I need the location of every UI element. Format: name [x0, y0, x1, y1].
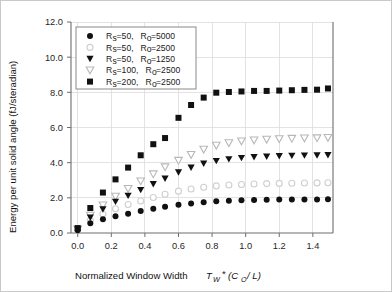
x-tick-label: 1.2: [273, 241, 286, 251]
svg-text:R: R: [146, 65, 152, 75]
svg-text:R: R: [106, 65, 112, 75]
svg-text:=2500: =2500: [151, 43, 175, 53]
y-tick-label: 2.0: [50, 193, 63, 203]
chart-figure: 0.00.20.40.60.81.01.21.40.02.04.06.08.01…: [0, 0, 392, 292]
x-tick-label: 1.4: [306, 241, 319, 251]
svg-text:=2500: =2500: [156, 65, 180, 75]
scatter-plot: 0.00.20.40.60.81.01.21.40.02.04.06.08.01…: [1, 1, 392, 292]
svg-text:=100,: =100,: [117, 65, 139, 75]
svg-text:R: R: [106, 31, 112, 41]
svg-text:=2500: =2500: [156, 77, 180, 87]
svg-text:R: R: [106, 77, 112, 87]
x-tick-label: 1.0: [239, 241, 252, 251]
x-tick-label: 0.4: [138, 241, 151, 251]
x-tick-label: 0.6: [172, 241, 185, 251]
x-tick-label: 0.0: [71, 241, 84, 251]
svg-text:R: R: [106, 43, 112, 53]
y-tick-label: 4.0: [50, 158, 63, 168]
x-tick-label: 0.2: [105, 241, 118, 251]
svg-text:=5000: =5000: [151, 31, 175, 41]
svg-text:=50,: =50,: [117, 31, 134, 41]
y-tick-label: 8.0: [50, 88, 63, 98]
y-tick-label: 10.0: [45, 53, 63, 63]
svg-text:R: R: [106, 54, 112, 64]
chart-legend: Rs=50,Ro=5000Rs=50,Ro=2500Rs=50,Ro=1250R…: [76, 27, 196, 89]
svg-text:=1250: =1250: [151, 54, 175, 64]
y-tick-label: 6.0: [50, 123, 63, 133]
x-axis-title: Normalized Window Width T W * (C O / L): [75, 268, 261, 284]
svg-text:(C: (C: [228, 270, 238, 281]
svg-text:=50,: =50,: [117, 43, 134, 53]
svg-text:Normalized Window Width: Normalized Window Width: [75, 270, 188, 281]
y-axis-title: Energy per unit solid angle (fJ/steradia…: [7, 61, 18, 233]
svg-text:R: R: [140, 43, 146, 53]
series-2: [74, 152, 331, 233]
svg-text:=200,: =200,: [117, 77, 139, 87]
x-tick-label: 0.8: [206, 241, 219, 251]
data-points: [74, 85, 332, 233]
svg-text:R: R: [146, 77, 152, 87]
svg-text:R: R: [140, 31, 146, 41]
svg-text:/ L): / L): [246, 270, 261, 281]
y-tick-label: 12.0: [45, 17, 63, 27]
svg-text:W: W: [213, 275, 221, 284]
svg-text:R: R: [140, 54, 146, 64]
series-1: [75, 180, 331, 233]
svg-text:=50,: =50,: [117, 54, 134, 64]
svg-text:T: T: [206, 270, 213, 281]
y-tick-label: 0.0: [50, 228, 63, 238]
svg-text:*: *: [222, 268, 226, 279]
series-0: [75, 196, 331, 233]
